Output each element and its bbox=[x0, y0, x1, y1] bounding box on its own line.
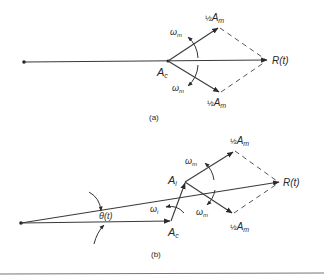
label-resultant-b: R(t) bbox=[283, 177, 300, 188]
omega-lower-arc bbox=[188, 65, 198, 86]
part-a-diagram: Ac R(t) ½Am ½Am ωm ωm (a) bbox=[22, 12, 288, 122]
caption-b: (b) bbox=[151, 250, 161, 259]
label-resultant-a: R(t) bbox=[272, 55, 289, 66]
dashed-lower bbox=[221, 62, 265, 92]
label-interferer: Ai bbox=[167, 174, 177, 187]
label-lower-sideband-b: ½Am bbox=[230, 221, 249, 233]
theta-upper-arrow bbox=[89, 192, 101, 211]
dashed-upper-b bbox=[235, 151, 277, 181]
part-b-diagram: Ac Ai R(t) θ(t) ½Am ½Am ωi ωm ωm (b) bbox=[19, 135, 299, 259]
label-lower-sideband-a: ½Am bbox=[207, 97, 226, 109]
omega-upper-arc bbox=[188, 37, 198, 58]
label-omega-lower-b: ωm bbox=[196, 207, 208, 218]
label-omega-upper-b: ωm bbox=[185, 156, 197, 167]
theta-lower-arrow bbox=[94, 225, 104, 244]
label-theta: θ(t) bbox=[99, 211, 112, 221]
caption-a: (a) bbox=[149, 113, 159, 122]
resultant-vector-b bbox=[21, 182, 279, 223]
label-upper-sideband-a: ½Am bbox=[205, 12, 224, 24]
figure-bottom-rule bbox=[0, 273, 324, 274]
label-omega-upper-a: ωm bbox=[170, 27, 182, 38]
label-upper-sideband-b: ½Am bbox=[230, 135, 249, 147]
resultant-vector bbox=[24, 60, 267, 62]
label-carrier-a: Ac bbox=[156, 66, 168, 79]
label-carrier-b: Ac bbox=[167, 226, 179, 239]
carrier-vector-b bbox=[21, 221, 170, 223]
label-omega-interferer: ωi bbox=[150, 204, 159, 215]
label-omega-lower-a: ωm bbox=[172, 83, 184, 94]
lower-sideband-vector-b bbox=[185, 182, 232, 213]
dashed-upper bbox=[220, 28, 265, 59]
omega-upper-arc-b bbox=[205, 163, 214, 180]
interferer-vector bbox=[171, 183, 185, 221]
phasor-diagram: Ac R(t) ½Am ½Am ωm ωm (a) bbox=[0, 0, 324, 280]
